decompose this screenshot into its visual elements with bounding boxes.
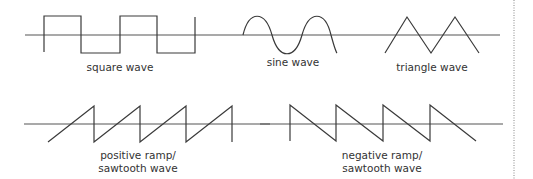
waveform-diagram: square wave sine wave triangle wave posi… <box>0 0 533 179</box>
square-wave-label: square wave <box>87 61 154 73</box>
triangle-wave-label: triangle wave <box>396 61 468 73</box>
positive-ramp-label-line2: sawtooth wave <box>98 162 177 174</box>
negative-ramp-wave <box>290 105 476 141</box>
negative-ramp-label-line1: negative ramp/ <box>342 149 423 161</box>
sine-wave-label: sine wave <box>267 56 320 68</box>
negative-ramp-label-line2: sawtooth wave <box>342 162 421 174</box>
positive-ramp-label-line1: positive ramp/ <box>100 149 176 161</box>
